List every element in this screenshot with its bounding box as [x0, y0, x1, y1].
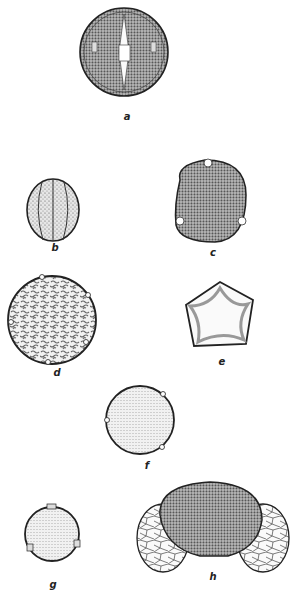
panel-label-g: g [49, 579, 56, 590]
pollen-illustrations [0, 0, 297, 600]
pollen-grain-e [186, 282, 253, 346]
pollen-figure: a b c d e f g h [0, 0, 297, 600]
pollen-grain-b [27, 179, 79, 241]
pollen-grain-h [137, 482, 289, 572]
pollen-grain-a [80, 8, 168, 96]
panel-label-f: f [145, 460, 149, 471]
panel-label-h: h [209, 571, 216, 582]
panel-label-d: d [53, 367, 60, 378]
panel-label-e: e [219, 356, 226, 367]
panel-label-a: a [124, 111, 131, 122]
pollen-grain-c [176, 159, 247, 242]
pollen-grain-g [25, 504, 80, 561]
panel-label-c: c [210, 247, 216, 258]
pollen-grain-d [8, 275, 96, 365]
panel-label-b: b [51, 242, 58, 253]
pollen-grain-f [105, 386, 175, 454]
